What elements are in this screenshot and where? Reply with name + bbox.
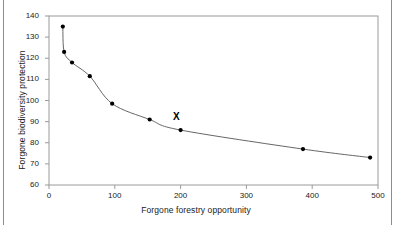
x-tick-label: 100 (100, 191, 130, 200)
chart-area: 60708090100110120130140 0100200300400500… (0, 0, 395, 225)
x-tick-label: 500 (363, 191, 393, 200)
y-tick-label: 140 (13, 11, 39, 20)
x-tick-label: 0 (34, 191, 64, 200)
data-point-marker (148, 117, 152, 121)
y-axis-ticks (45, 16, 49, 185)
data-point-marker (179, 128, 183, 132)
data-point-marker (61, 24, 65, 28)
x-tick-label: 300 (231, 191, 261, 200)
data-point-marker (301, 147, 305, 151)
x-tick-label: 200 (166, 191, 196, 200)
x-axis-ticks (49, 185, 378, 189)
data-point-marker (62, 50, 66, 54)
series-line (63, 27, 370, 158)
x-axis-title: Forgone forestry opportunity (0, 205, 392, 215)
data-point-marker (110, 102, 114, 106)
x-tick-label: 400 (297, 191, 327, 200)
data-point-marker (368, 155, 372, 159)
y-axis-title: Forgone biodiversity protection (17, 30, 27, 190)
figure-root: 60708090100110120130140 0100200300400500… (0, 0, 405, 225)
plot-frame (49, 16, 378, 185)
series-markers (61, 24, 372, 159)
annotation-label-x: X (173, 111, 180, 122)
data-point-marker (88, 74, 92, 78)
data-point-marker (70, 60, 74, 64)
